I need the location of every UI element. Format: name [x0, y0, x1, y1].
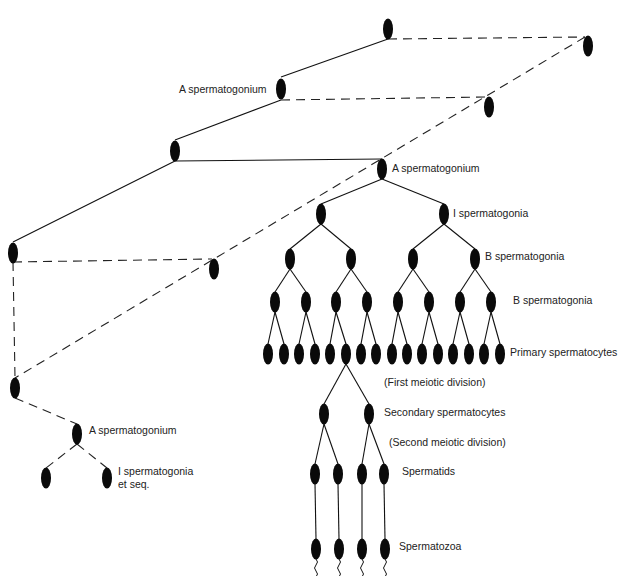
- cell-nucleus: [357, 464, 367, 485]
- cell-nucleus: [484, 97, 494, 118]
- lineage-line: [413, 269, 429, 292]
- label-spermatids: Spermatids: [402, 465, 455, 477]
- cell-nucleus: [583, 36, 593, 57]
- lineage-line: [444, 224, 475, 249]
- cell-nucleus: [72, 424, 82, 445]
- cell-nucleus: [380, 539, 390, 560]
- lineage-line: [362, 424, 369, 464]
- cell-nucleus: [334, 539, 344, 560]
- label-i-spermatogonia-et-seq-line2: et seq.: [118, 478, 150, 490]
- cell-nucleus: [357, 539, 367, 560]
- lineage-line: [175, 100, 281, 140]
- lineage-line: [13, 161, 175, 242]
- cell-nucleus: [102, 468, 112, 489]
- cell-nucleus: [301, 292, 311, 313]
- label-first-meiotic-division: (First meiotic division): [384, 376, 486, 388]
- label-b-spermatogonia-2: B spermatogonia: [513, 294, 593, 306]
- cell-nucleus: [433, 344, 443, 365]
- lineage-line: [398, 312, 407, 344]
- lineage-line: [275, 269, 290, 292]
- lineage-line: [392, 312, 398, 344]
- label-i-spermatogonia-et-seq-line1: I spermatogonia: [118, 465, 193, 477]
- sperm-tail: [384, 559, 387, 576]
- cell-nucleus: [285, 249, 295, 270]
- dashed-lineage-line: [281, 97, 487, 100]
- label-primary-spermatocytes: Primary spermatocytes: [510, 346, 617, 358]
- cell-nucleus: [448, 344, 458, 365]
- sperm-tail: [338, 559, 341, 576]
- cell-nucleus: [333, 464, 343, 485]
- lineage-line: [413, 224, 444, 249]
- label-i-spermatogonia: I spermatogonia: [453, 207, 528, 219]
- lineage-line: [367, 312, 376, 344]
- cell-nucleus: [379, 464, 389, 485]
- cell-nucleus: [408, 249, 418, 270]
- cell-nucleus: [364, 404, 374, 425]
- lineage-line: [361, 312, 367, 344]
- lineage-line: [315, 424, 324, 464]
- label-secondary-spermatocytes: Secondary spermatocytes: [384, 406, 505, 418]
- cell-nucleus: [294, 344, 304, 365]
- cell-nucleus: [424, 292, 434, 313]
- dashed-lineage-line: [15, 398, 77, 424]
- cell-nucleus: [263, 344, 273, 365]
- sperm-tail: [315, 559, 318, 576]
- cell-nucleus: [387, 344, 397, 365]
- spermatogenesis-diagram: A spermatogonium A spermatogonium I sper…: [0, 0, 633, 576]
- cell-nucleus: [325, 344, 335, 365]
- lineage-line: [299, 312, 306, 344]
- lineage-line: [346, 364, 369, 404]
- cell-nucleus: [209, 259, 219, 280]
- cell-nucleus: [377, 159, 387, 180]
- cell-nucleus: [383, 19, 393, 40]
- lineage-line: [268, 312, 275, 344]
- lineage-line: [175, 159, 382, 161]
- dashed-lineage-line: [388, 37, 585, 39]
- cell-nucleus: [486, 292, 496, 313]
- lineage-line: [324, 424, 338, 464]
- spermatozoa-tails: [315, 559, 387, 576]
- cell-nucleus: [170, 141, 180, 162]
- label-second-meiotic-division: (Second meiotic division): [389, 436, 506, 448]
- lineage-line: [491, 312, 500, 344]
- lineage-line: [422, 312, 429, 344]
- cell-nucleus: [311, 539, 321, 560]
- solid-lineage-lines: [13, 39, 500, 539]
- cell-nucleus: [464, 344, 474, 365]
- lineage-line: [384, 484, 385, 539]
- dashed-lineage-line: [13, 259, 212, 262]
- sperm-tail: [361, 559, 364, 576]
- cell-nucleus: [479, 344, 489, 365]
- cell-nucleus: [417, 344, 427, 365]
- cell-nucleus: [41, 468, 51, 489]
- lineage-line: [306, 312, 315, 344]
- label-b-spermatogonia-1: B spermatogonia: [485, 250, 565, 262]
- lineage-line: [315, 484, 316, 539]
- cell-nucleus: [439, 204, 449, 225]
- lineage-line: [330, 312, 336, 344]
- cell-nucleus: [393, 292, 403, 313]
- cell-nucleus: [10, 378, 20, 399]
- cell-nucleus: [310, 344, 320, 365]
- lineage-line: [321, 224, 351, 249]
- cell-nucleus: [362, 292, 372, 313]
- lineage-line: [460, 269, 475, 292]
- cell-nucleus: [371, 344, 381, 365]
- cell-nucleus: [319, 404, 329, 425]
- lineage-line: [429, 312, 438, 344]
- lineage-line: [321, 179, 382, 204]
- lineage-line: [281, 39, 388, 77]
- lineage-line: [398, 269, 413, 292]
- lineage-line: [453, 312, 460, 344]
- cell-nucleus: [270, 292, 280, 313]
- cell-nucleus: [316, 204, 326, 225]
- label-a-spermatogonium-3: A spermatogonium: [89, 424, 177, 436]
- cell-nucleus: [310, 464, 320, 485]
- cell-nucleus: [402, 344, 412, 365]
- cell-nucleus: [346, 249, 356, 270]
- label-a-spermatogonium-2: A spermatogonium: [392, 162, 480, 174]
- lineage-line: [351, 269, 367, 292]
- cell-nucleus: [331, 292, 341, 313]
- stage-labels: A spermatogonium A spermatogonium I sper…: [89, 83, 617, 552]
- cell-nucleus: [470, 249, 480, 270]
